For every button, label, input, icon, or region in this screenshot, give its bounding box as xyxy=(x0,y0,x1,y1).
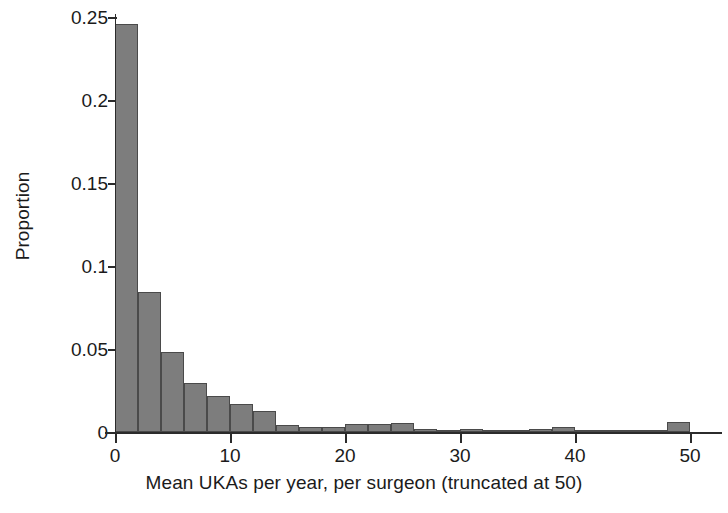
histogram-bar xyxy=(276,425,299,432)
y-axis-tick-label: 0.05 xyxy=(46,340,108,359)
y-axis-title-text: Proportion xyxy=(12,172,34,261)
x-axis-tick-label: 10 xyxy=(200,446,260,465)
x-axis-tick-label: 20 xyxy=(315,446,375,465)
x-axis-tick-mark xyxy=(575,432,577,443)
y-axis-tick-label: 0.1 xyxy=(46,257,108,276)
y-axis-tick-label: 0.2 xyxy=(46,91,108,110)
x-axis-tick-mark xyxy=(460,432,462,443)
x-axis-line xyxy=(105,432,722,434)
histogram-figure: Proportion 00.050.10.150.20.25 010203040… xyxy=(0,0,728,513)
x-axis-tick-mark xyxy=(690,432,692,443)
y-axis-tick-label: 0.25 xyxy=(46,8,108,27)
x-axis-tick-mark xyxy=(345,432,347,443)
x-axis-tick-mark xyxy=(230,432,232,443)
histogram-bar xyxy=(345,424,368,432)
x-axis-tick-label: 30 xyxy=(430,446,490,465)
histogram-bar xyxy=(184,383,207,432)
x-axis-title: Mean UKAs per year, per surgeon (truncat… xyxy=(0,472,728,494)
x-axis-tick-mark xyxy=(115,432,117,443)
histogram-bar xyxy=(667,422,690,432)
y-axis-title: Proportion xyxy=(0,0,46,432)
x-axis-tick-label: 50 xyxy=(660,446,720,465)
histogram-bar xyxy=(161,352,184,432)
histogram-bar xyxy=(230,404,253,432)
x-axis-tick-label: 40 xyxy=(545,446,605,465)
histogram-bar xyxy=(207,396,230,432)
y-axis-line xyxy=(115,14,117,442)
histogram-bar xyxy=(391,423,414,432)
histogram-bar xyxy=(253,411,276,432)
y-axis-tick-labels: 00.050.10.150.20.25 xyxy=(44,0,108,513)
histogram-bar xyxy=(138,292,161,432)
y-axis-tick-label: 0.15 xyxy=(46,174,108,193)
x-axis-tick-label: 0 xyxy=(85,446,145,465)
plot-area xyxy=(115,17,690,432)
histogram-bar xyxy=(115,24,138,432)
histogram-bar xyxy=(368,424,391,432)
y-axis-tick-label: 0 xyxy=(46,423,108,442)
histogram-bars xyxy=(115,17,690,432)
